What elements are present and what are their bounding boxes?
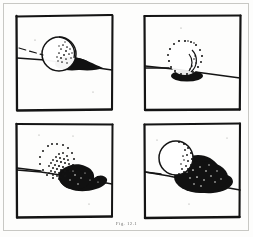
figure-page: Fig. 12.1 xyxy=(0,0,253,237)
sphere xyxy=(168,41,202,75)
cast-shadow xyxy=(58,164,107,191)
panel-bottom-right xyxy=(143,122,242,220)
panel-top-right-drawing xyxy=(143,14,242,112)
scan-speckle xyxy=(188,203,189,204)
panel-bottom-right-drawing xyxy=(143,122,242,220)
scan-speckle xyxy=(72,135,73,136)
scan-speckle xyxy=(34,39,35,40)
scan-speckle xyxy=(38,134,39,135)
scan-speckle xyxy=(156,139,157,140)
panel-top-right xyxy=(143,14,242,112)
panel-top-left-drawing xyxy=(15,14,114,112)
scan-speckle xyxy=(88,203,89,204)
panel-bottom-left-drawing xyxy=(15,122,114,220)
incident-ray xyxy=(19,48,43,55)
scan-speckle xyxy=(92,91,93,92)
panel-bottom-left xyxy=(15,122,114,220)
panel-grid xyxy=(0,0,253,237)
scan-speckle xyxy=(226,137,227,138)
figure-caption: Fig. 12.1 xyxy=(0,221,253,226)
sphere xyxy=(42,37,76,71)
panel-top-left xyxy=(15,14,114,112)
scan-speckle xyxy=(180,27,181,28)
incident-ray xyxy=(145,172,161,174)
